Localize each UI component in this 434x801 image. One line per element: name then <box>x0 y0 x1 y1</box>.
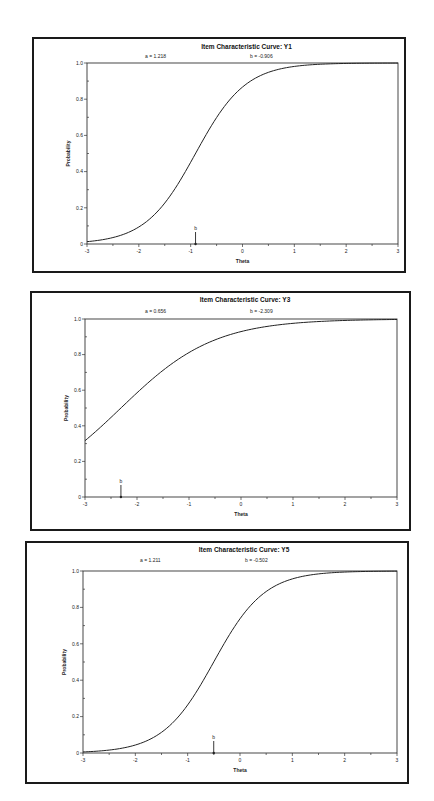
y-tick-label: 0.8 <box>72 604 79 610</box>
x-tick-label: -1 <box>185 757 190 763</box>
b-marker-label: b <box>212 734 215 740</box>
plot-area <box>83 571 397 753</box>
x-tick-label: -3 <box>81 757 86 763</box>
y-axis-label: Probability <box>61 649 67 675</box>
param-a-label: a = 1.211 <box>140 557 161 563</box>
y-tick-label: 0.2 <box>72 713 79 719</box>
x-axis-label: Theta <box>233 767 247 773</box>
y-tick-label: 0.4 <box>72 677 79 683</box>
chart-title: Item Characteristic Curve: Y5 <box>199 546 290 553</box>
y-tick-label: 1.0 <box>72 568 79 574</box>
x-tick-label: 0 <box>239 757 242 763</box>
icc-chart-3: Item Characteristic Curve: Y5a = 1.211b … <box>0 0 434 801</box>
x-tick-label: 2 <box>343 757 346 763</box>
x-tick-label: 3 <box>396 757 399 763</box>
x-tick-label: 1 <box>291 757 294 763</box>
y-tick-label: 0.6 <box>72 641 79 647</box>
icc-curve <box>83 571 397 752</box>
y-tick-label: 0 <box>76 750 79 756</box>
x-tick-label: -2 <box>133 757 138 763</box>
param-b-label: b = -0.502 <box>245 557 268 563</box>
